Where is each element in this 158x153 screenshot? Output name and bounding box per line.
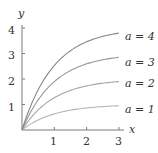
curve-a1 bbox=[22, 106, 119, 130]
chart: y x 1 2 3 4 1 2 3 a = 4 a = 3 a = 2 a = … bbox=[0, 0, 158, 153]
series-label-a2: a = 2 bbox=[125, 77, 155, 90]
axes bbox=[22, 25, 124, 130]
series-label-a3: a = 3 bbox=[125, 56, 155, 69]
series-label-a4: a = 4 bbox=[125, 30, 155, 43]
y-tick-label: 2 bbox=[8, 75, 15, 88]
y-tick-label: 3 bbox=[8, 49, 15, 62]
curve-a4 bbox=[22, 33, 119, 130]
y-tick-labels: 1 2 3 4 bbox=[8, 24, 15, 114]
y-axis-label: y bbox=[17, 7, 25, 20]
series-labels: a = 4 a = 3 a = 2 a = 1 bbox=[125, 30, 155, 116]
x-tick-label: 3 bbox=[115, 135, 122, 148]
x-tick-labels: 1 2 3 bbox=[50, 135, 122, 148]
curve-a2 bbox=[22, 82, 119, 130]
x-axis-label: x bbox=[129, 123, 136, 136]
curves bbox=[22, 33, 119, 130]
series-label-a1: a = 1 bbox=[125, 103, 155, 116]
y-tick-label: 1 bbox=[8, 101, 15, 114]
x-tick-label: 1 bbox=[50, 135, 57, 148]
x-tick-label: 2 bbox=[83, 135, 90, 148]
y-tick-label: 4 bbox=[8, 24, 15, 37]
